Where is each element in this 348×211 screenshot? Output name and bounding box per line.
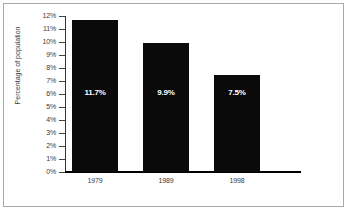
chart-figure: Percentage of population 12%11%10%9%8%7%… xyxy=(0,0,348,211)
y-tick-label: 2% xyxy=(46,142,56,150)
y-tick-label: 1% xyxy=(46,155,56,163)
y-tick-label: 5% xyxy=(46,103,56,111)
y-tick-label: 0% xyxy=(46,168,56,176)
x-tick-label: 1989 xyxy=(143,177,189,184)
bar-value-label: 11.7% xyxy=(72,88,118,97)
x-tick-label: 1979 xyxy=(72,177,118,184)
bar[interactable]: 7.5% xyxy=(214,75,260,173)
x-tick-label: 1998 xyxy=(214,177,260,184)
plot-area: 11.7%9.9%7.5% xyxy=(65,16,301,172)
y-tick-label: 9% xyxy=(46,51,56,59)
bar-value-label: 7.5% xyxy=(214,88,260,97)
y-tick-label: 4% xyxy=(46,116,56,124)
bar-value-label: 9.9% xyxy=(143,88,189,97)
y-axis-title: Percentage of population xyxy=(14,11,21,121)
y-tick-label: 10% xyxy=(43,38,56,46)
y-tick-label: 12% xyxy=(43,12,56,20)
y-tick-mark xyxy=(59,172,65,173)
bar[interactable]: 9.9% xyxy=(143,43,189,172)
bar[interactable]: 11.7% xyxy=(72,20,118,172)
y-tick-label: 8% xyxy=(46,64,56,72)
y-tick-label: 3% xyxy=(46,129,56,137)
y-tick-label: 7% xyxy=(46,77,56,85)
y-tick-label: 11% xyxy=(43,25,56,33)
y-tick-label: 6% xyxy=(46,90,56,98)
